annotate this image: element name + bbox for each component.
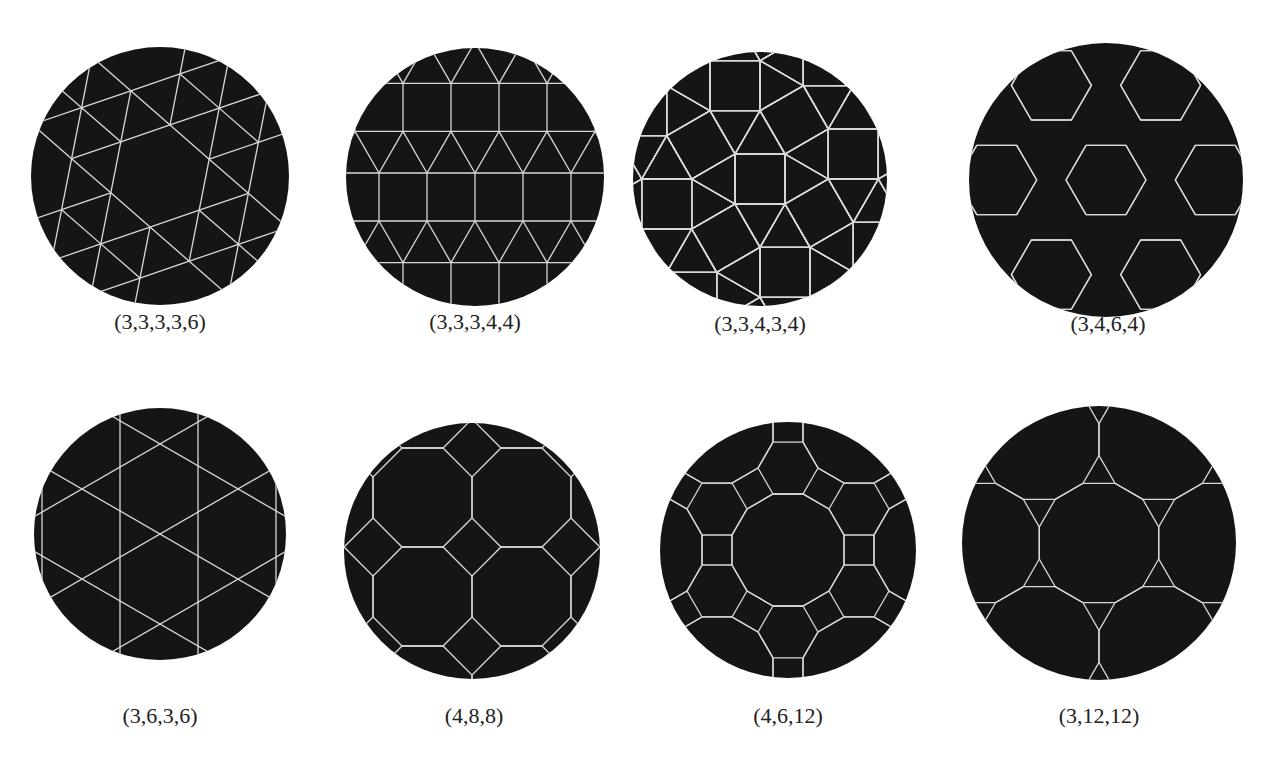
- tiling-panel-t8: [958, 402, 1240, 684]
- tiling-label-3-6-3-6: (3,6,3,6): [122, 703, 197, 729]
- tiling-disc: [340, 419, 604, 683]
- tiling-label-4-8-8: (4,8,8): [445, 703, 504, 729]
- tiling-label-3-3-3-4-4: (3,3,3,4,4): [429, 309, 521, 335]
- tiling-label-3-3-4-3-4: (3,3,4,3,4): [714, 311, 806, 337]
- tiling-panel-t2: [342, 44, 608, 310]
- tiling-panel-t6: [340, 419, 604, 683]
- tiling-panel-t4: [965, 39, 1247, 321]
- tiling-disc: [342, 44, 608, 310]
- tiling-label-3-3-3-3-6: (3,3,3,3,6): [114, 309, 206, 335]
- tiling-disc: [30, 404, 290, 664]
- tiling-disc: [629, 48, 891, 310]
- tiling-label-3-4-6-4: (3,4,6,4): [1070, 311, 1145, 337]
- tiling-panel-t5: [30, 404, 290, 664]
- tiling-label-4-6-12: (4,6,12): [753, 703, 823, 729]
- tiling-disc: [965, 39, 1247, 321]
- tiling-disc: [27, 43, 293, 309]
- tiling-disc: [656, 418, 920, 682]
- tiling-disc: [958, 402, 1240, 684]
- tiling-label-3-12-12: (3,12,12): [1059, 703, 1140, 729]
- tiling-panel-t1: [27, 43, 293, 309]
- tiling-panel-t7: [656, 418, 920, 682]
- tiling-panel-t3: [629, 48, 891, 310]
